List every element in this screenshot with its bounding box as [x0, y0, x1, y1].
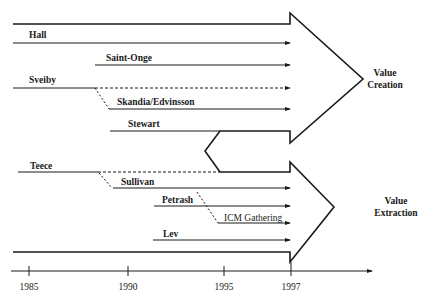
- label-saint-onge: Saint-Onge: [106, 53, 152, 63]
- label-sullivan: Sullivan: [121, 177, 155, 187]
- tick-label-1997: 1997: [282, 282, 301, 292]
- value-extraction-arrow-outline: [13, 162, 334, 262]
- sveiby-skandia-connector: [95, 88, 109, 109]
- tick-label-1990: 1990: [119, 282, 138, 292]
- label-stewart: Stewart: [128, 119, 160, 129]
- label-teece: Teece: [30, 161, 52, 171]
- petrash-icm-connector: [197, 192, 218, 223]
- label-hall: Hall: [29, 30, 47, 40]
- diagram-canvas: Hall Saint-Onge Sveiby Skandia/Edvinsson…: [0, 0, 425, 305]
- tick-label-1995: 1995: [215, 282, 234, 292]
- label-lev: Lev: [163, 229, 179, 239]
- value-creation-label-line1: Value: [374, 68, 397, 78]
- label-skandia-edvinsson: Skandia/Edvinsson: [117, 97, 195, 107]
- teece-sullivan-connector: [99, 173, 112, 188]
- value-creation-label-line2: Creation: [367, 80, 403, 90]
- value-creation-arrow-outline: [13, 13, 363, 172]
- label-petrash: Petrash: [162, 195, 194, 205]
- value-extraction-label-line2: Extraction: [374, 208, 418, 218]
- tick-label-1985: 1985: [20, 282, 39, 292]
- label-icm-gathering: ICM Gathering: [224, 213, 283, 223]
- label-sveiby: Sveiby: [29, 75, 56, 85]
- value-extraction-label-line1: Value: [385, 196, 408, 206]
